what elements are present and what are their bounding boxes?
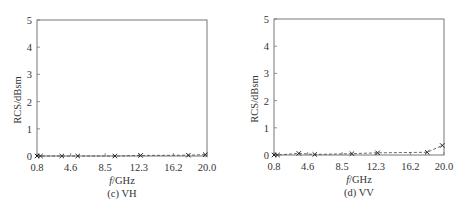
plot-frame <box>37 20 207 156</box>
x-tick-label: 20.0 <box>198 162 216 173</box>
x-tick-label: 4.6 <box>64 162 77 173</box>
x-axis-title-unit: /GHz <box>112 175 135 186</box>
y-tick-label: 0 <box>264 150 269 161</box>
figure: 012345 0.84.68.512.316.220.0 RCS/dBsm f/… <box>0 0 465 212</box>
chart-caption: (c) VH <box>107 188 137 200</box>
x-tick-label: 12.3 <box>130 162 148 173</box>
x-tick-label: 0.8 <box>267 161 280 172</box>
x-tick-label: 16.2 <box>401 161 419 172</box>
chart-vv: 012345 0.84.68.512.316.220.0 RCS/dBsm f/… <box>249 14 453 199</box>
y-tick-label: 0 <box>27 151 32 162</box>
y-tick-label: 3 <box>27 69 32 80</box>
x-tick-label: 0.8 <box>30 162 43 173</box>
y-axis-title: RCS/dBsm <box>12 76 23 123</box>
chart-vh: 012345 0.84.68.512.316.220.0 RCS/dBsm f/… <box>12 15 216 200</box>
x-axis-title: f/GHz <box>109 175 135 186</box>
x-tick-label: 16.2 <box>164 162 182 173</box>
x-tick-label: 20.0 <box>435 161 453 172</box>
y-tick-label: 3 <box>264 68 269 79</box>
x-axis-title: f/GHz <box>346 174 372 185</box>
chart-caption: (d) VV <box>344 187 374 199</box>
y-tick-label: 5 <box>27 15 32 26</box>
x-tick-label: 12.3 <box>367 161 385 172</box>
x-tick-label: 8.5 <box>99 162 112 173</box>
y-axis: 012345 <box>264 14 277 161</box>
x-tick-label: 8.5 <box>336 161 349 172</box>
y-axis: 012345 <box>27 15 40 162</box>
y-tick-label: 1 <box>264 123 269 134</box>
y-axis-title: RCS/dBsm <box>249 75 260 122</box>
x-tick-label: 4.6 <box>301 161 314 172</box>
plot-frame <box>274 19 444 155</box>
y-tick-label: 1 <box>27 124 32 135</box>
series-vh <box>35 152 208 158</box>
y-tick-label: 4 <box>27 42 33 53</box>
y-tick-label: 5 <box>264 14 269 25</box>
y-tick-label: 2 <box>27 97 32 108</box>
y-tick-label: 2 <box>264 96 269 107</box>
x-axis-title-unit: /GHz <box>349 174 372 185</box>
y-tick-label: 4 <box>264 41 270 52</box>
